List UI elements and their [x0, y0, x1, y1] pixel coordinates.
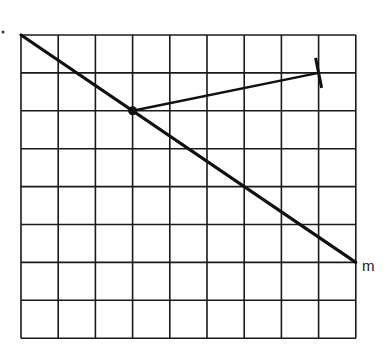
square-grid: [21, 35, 356, 338]
stray-mark: [2, 31, 5, 34]
segment-from-point: [133, 73, 319, 111]
point-on-line-m: [128, 106, 137, 115]
grid-diagram: [0, 0, 388, 355]
line-m-label: m: [362, 257, 375, 274]
